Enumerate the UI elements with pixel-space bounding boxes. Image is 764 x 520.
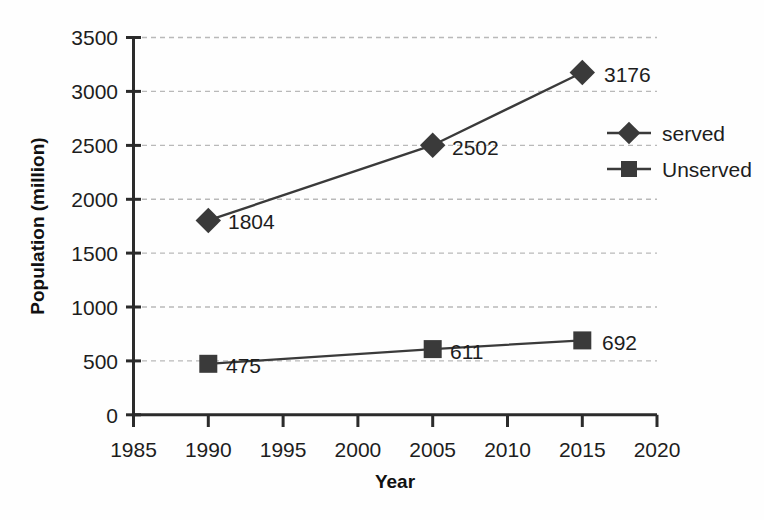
data-label-served-2015: 3176 xyxy=(604,63,651,86)
series-unserved-point-1990 xyxy=(199,355,217,373)
y-tick-label-500: 500 xyxy=(83,350,118,373)
y-tick-label-2500: 2500 xyxy=(71,134,118,157)
x-tick-label-1985: 1985 xyxy=(110,438,157,461)
x-tick-label-2015: 2015 xyxy=(559,438,606,461)
x-tick-label-2005: 2005 xyxy=(409,438,456,461)
data-label-unserved-2005: 611 xyxy=(450,340,483,363)
series-unserved-point-2005 xyxy=(424,340,442,358)
x-tick-label-2000: 2000 xyxy=(335,438,382,461)
y-axis-title: Population (million) xyxy=(27,137,48,314)
y-tick-label-3500: 3500 xyxy=(71,26,118,49)
y-tick-label-1500: 1500 xyxy=(71,242,118,265)
x-tick-label-1995: 1995 xyxy=(260,438,307,461)
x-tick-label-1990: 1990 xyxy=(185,438,232,461)
data-label-served-2005: 2502 xyxy=(452,136,499,159)
data-label-served-1990: 1804 xyxy=(228,210,275,233)
series-unserved-point-2015 xyxy=(573,331,591,349)
line-chart: 3500 3000 2500 2000 1500 1000 500 0 1985… xyxy=(0,0,764,520)
y-tick-label-0: 0 xyxy=(106,404,118,427)
legend-label-served: served xyxy=(662,122,725,145)
data-label-unserved-2015: 692 xyxy=(602,331,637,354)
y-tick-label-2000: 2000 xyxy=(71,188,118,211)
y-tick-label-1000: 1000 xyxy=(71,296,118,319)
x-tick-label-2010: 2010 xyxy=(484,438,531,461)
chart-container: 3500 3000 2500 2000 1500 1000 500 0 1985… xyxy=(0,0,764,520)
y-tick-label-3000: 3000 xyxy=(71,80,118,103)
square-marker xyxy=(621,161,637,177)
legend-label-unserved: Unserved xyxy=(662,158,752,181)
data-label-unserved-1990: 475 xyxy=(226,354,261,377)
x-tick-label-2020: 2020 xyxy=(634,438,681,461)
x-axis-title: Year xyxy=(375,471,416,492)
